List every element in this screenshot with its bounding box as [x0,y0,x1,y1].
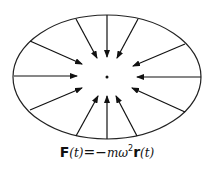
force-arrow [133,44,185,66]
force-arrow [117,19,138,58]
mass-symbol: m [107,146,118,160]
equals-minus: =− [83,144,106,160]
force-arrow [30,41,82,64]
force-arrow [116,96,137,136]
time-arg: (t) [69,146,83,160]
force-arrow [30,88,82,110]
force-arrow [132,88,185,112]
force-symbol: F [60,144,70,160]
force-arrow [76,96,98,136]
omega-symbol: ω [118,146,128,160]
force-equation: F(t)=−mω2r(t) [0,144,214,160]
force-arrow [76,19,97,58]
center-point [106,76,109,79]
time-arg-2: (t) [140,146,154,160]
